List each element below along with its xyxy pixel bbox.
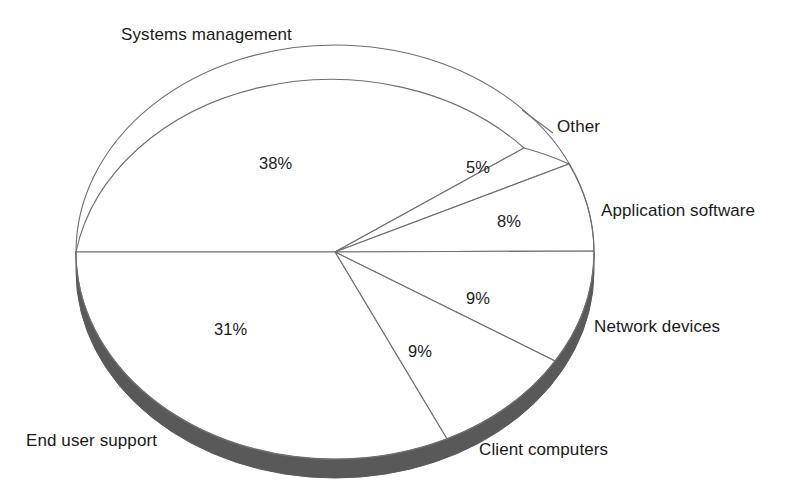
slice-value-application-software: 8% [497, 213, 521, 230]
slice-value-client-computers: 9% [408, 343, 432, 360]
slice-label-other: Other [557, 118, 600, 135]
slice-label-application-software: Application software [601, 202, 755, 219]
slice-label-systems-management: Systems management [121, 26, 292, 43]
slice-value-network-devices: 9% [466, 290, 490, 307]
pie-chart: Systems management Other Application sof… [0, 0, 792, 487]
slice-value-systems-management: 38% [259, 155, 292, 172]
slice-label-network-devices: Network devices [594, 318, 720, 335]
pie-chart-graphic [0, 0, 792, 487]
slice-value-end-user-support: 31% [214, 321, 247, 338]
slice-value-other: 5% [466, 159, 490, 176]
slice-label-client-computers: Client computers [479, 441, 608, 458]
slice-label-end-user-support: End user support [26, 432, 157, 449]
leader-line-other [522, 110, 553, 133]
